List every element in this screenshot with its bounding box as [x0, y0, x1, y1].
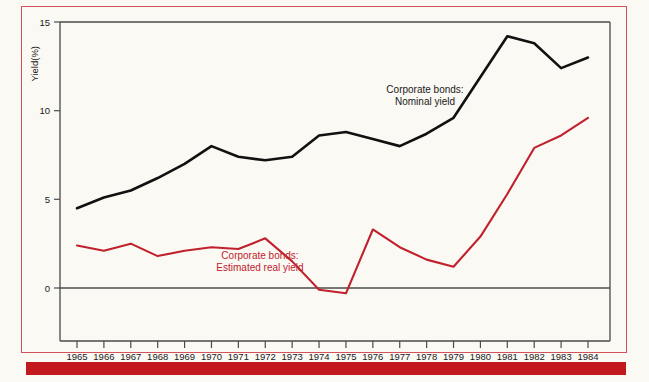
- y-axis-title: Yield(%): [29, 46, 40, 82]
- x-tick-label-1982: 1982: [524, 351, 545, 362]
- x-tick-label-1978: 1978: [416, 351, 437, 362]
- x-tick-label-1973: 1973: [282, 351, 303, 362]
- x-tick-label-1968: 1968: [147, 351, 168, 362]
- x-axis-ticks: 1965196619671968196919701971197219731974…: [66, 341, 598, 362]
- x-tick-label-1965: 1965: [66, 351, 87, 362]
- x-tick-label-1969: 1969: [174, 351, 195, 362]
- annotation-nominal-line2: Nominal yield: [395, 96, 455, 107]
- plot-frame: [60, 22, 610, 341]
- annotation-real-line2: Estimated real yield: [216, 262, 303, 273]
- x-tick-label-1971: 1971: [228, 351, 249, 362]
- y-tick-label-0: 0: [45, 283, 50, 294]
- y-tick-label-15: 15: [39, 17, 50, 28]
- series-line-nominal-yield: [77, 36, 588, 208]
- x-tick-label-1981: 1981: [497, 351, 518, 362]
- y-tick-label-10: 10: [39, 105, 50, 116]
- annotation-nominal-line1: Corporate bonds:: [386, 84, 463, 95]
- annotation-real: Corporate bonds: Estimated real yield: [216, 250, 303, 273]
- yield-line-chart: 0 5 10 15 Yield(%) 196519661967196819691…: [0, 0, 649, 382]
- x-tick-label-1983: 1983: [551, 351, 572, 362]
- x-tick-label-1966: 1966: [93, 351, 114, 362]
- y-axis-ticks: 0 5 10 15: [39, 17, 60, 294]
- chart-page: 0 5 10 15 Yield(%) 196519661967196819691…: [0, 0, 649, 382]
- x-tick-label-1975: 1975: [335, 351, 356, 362]
- x-tick-label-1979: 1979: [443, 351, 464, 362]
- x-tick-label-1972: 1972: [255, 351, 276, 362]
- annotation-nominal: Corporate bonds: Nominal yield: [386, 84, 463, 107]
- y-tick-label-5: 5: [45, 194, 50, 205]
- x-tick-label-1967: 1967: [120, 351, 141, 362]
- x-tick-label-1984: 1984: [577, 351, 598, 362]
- x-tick-label-1970: 1970: [201, 351, 222, 362]
- decorative-red-bar: [26, 362, 626, 375]
- x-tick-label-1980: 1980: [470, 351, 491, 362]
- x-tick-label-1976: 1976: [362, 351, 383, 362]
- x-tick-label-1974: 1974: [308, 351, 329, 362]
- series-line-estimated-real-yield: [77, 118, 588, 294]
- chart-canvas: 0 5 10 15 Yield(%) 196519661967196819691…: [0, 0, 649, 382]
- x-tick-label-1977: 1977: [389, 351, 410, 362]
- annotation-real-line1: Corporate bonds:: [221, 250, 298, 261]
